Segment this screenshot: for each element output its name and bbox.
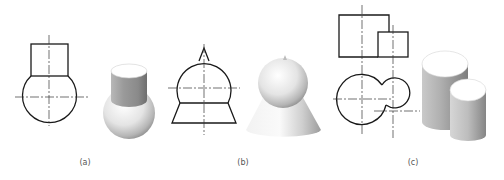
small-cylinder-top-3d: [450, 79, 486, 101]
large-cylinder-top-3d: [422, 51, 468, 77]
figure-b: (b): [168, 44, 321, 167]
figure-c-orthographic-view: [333, 5, 420, 138]
figure-c-3d-view: [422, 51, 486, 141]
sphere-3d: [258, 58, 308, 108]
figure-b-3d-view: [246, 55, 321, 137]
figure-b-label: (b): [237, 158, 248, 167]
cone-tip-3d: [283, 55, 287, 60]
cylinder-top-3d: [111, 64, 147, 78]
figure-a-orthographic-view: [15, 35, 88, 126]
figure-a-label: (a): [79, 158, 90, 167]
figure-a-3d-view: [103, 64, 155, 139]
figure-b-orthographic-view: [168, 44, 240, 135]
sphere-front-view: [22, 76, 76, 123]
figure-c-label: (c): [408, 158, 419, 167]
large-cylinder-top-view: [337, 74, 386, 124]
cylinder-front-view: [31, 44, 68, 76]
small-cylinder-top-view: [382, 78, 410, 108]
figure-a: (a): [15, 35, 155, 167]
technical-drawing-canvas: (a) (b): [0, 0, 504, 180]
large-cylinder-front-view: [339, 15, 389, 57]
figure-c: (c): [333, 5, 486, 167]
